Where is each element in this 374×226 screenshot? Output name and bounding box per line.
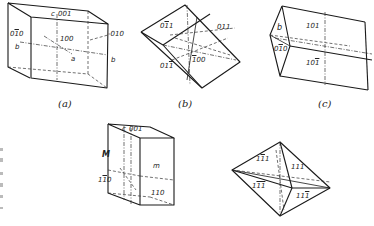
crystal-e-drawing (232, 142, 330, 216)
label-c-face-10-1: 101 (306, 60, 319, 67)
label-e-face-1-11: 111 (256, 156, 269, 163)
label-b-face-011: 011 (217, 24, 230, 31)
label-b-face--100: 100 (192, 57, 205, 64)
label-e-face-111: 111 (291, 164, 304, 171)
label-a-face-0-10: 010 (10, 31, 23, 38)
crystal-drawings (0, 0, 374, 226)
label-d-face-001: 001 (129, 126, 142, 133)
label-d-m-face: m (153, 163, 160, 170)
label-a-a-axis: a (71, 56, 75, 63)
label-c-b-face: b (277, 24, 282, 32)
label-a-b-left: b (15, 44, 19, 51)
crystal-b-drawing (141, 5, 240, 88)
label-b-face-0-11: 011 (160, 23, 173, 30)
caption-b: (b) (178, 99, 192, 109)
label-a-b-right: b (111, 57, 115, 64)
label-d-face-1-10: 110 (98, 177, 111, 184)
label-e-face-11-1: 111 (296, 193, 309, 200)
label-d-c-axis: c (122, 126, 126, 133)
label-a-face-010: -010 (108, 31, 124, 38)
label-b-face-01-1: 011 (160, 63, 173, 70)
caption-c: (c) (318, 99, 331, 109)
label-e-face-1-1-1: 111 (252, 183, 265, 190)
label-d-face-110: 110 (151, 190, 164, 197)
label-a-face-001: 001 (58, 11, 71, 18)
label-d-M-face: M (102, 151, 110, 159)
label-c-face-101: 101 (306, 23, 319, 30)
label-a-c-axis: c (51, 11, 55, 18)
label-c-face-0-10: 010 (274, 46, 287, 53)
caption-a: (a) (58, 99, 72, 109)
label-a-face-100: 100 (60, 36, 73, 43)
